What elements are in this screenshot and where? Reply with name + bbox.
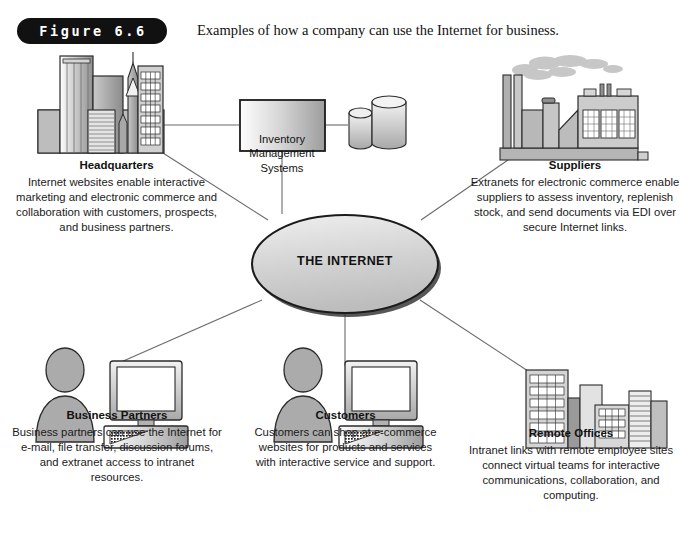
suppliers-text-block: Suppliers Extranets for electronic comme… bbox=[470, 158, 680, 235]
headquarters-text-block: Headquarters Internet websites enable in… bbox=[14, 158, 219, 235]
figure-number-badge: Figure 6.6 bbox=[17, 18, 167, 44]
remote-offices-description: Intranet links with remote employee site… bbox=[462, 443, 680, 503]
inventory-box-line3: Systems bbox=[240, 161, 324, 175]
headquarters-title: Headquarters bbox=[14, 158, 219, 173]
figure-header: Figure 6.6 Examples of how a company can… bbox=[0, 0, 679, 52]
inventory-box-line2: Management bbox=[240, 146, 324, 160]
customers-description: Customers can shop at e-commerce website… bbox=[248, 425, 443, 470]
remote-offices-title: Remote Offices bbox=[462, 426, 680, 441]
business-partners-title: Business Partners bbox=[12, 408, 222, 423]
database-cylinder-icon bbox=[349, 96, 406, 149]
suppliers-title: Suppliers bbox=[470, 158, 680, 173]
internet-business-diagram: Inventory Management Systems THE INTERNE… bbox=[0, 48, 679, 534]
inventory-box-line1: Inventory bbox=[240, 132, 324, 146]
figure-caption: Examples of how a company can use the In… bbox=[197, 22, 559, 39]
headquarters-description: Internet websites enable interactive mar… bbox=[14, 175, 219, 235]
business-partners-text-block: Business Partners Business partners can … bbox=[12, 408, 222, 485]
suppliers-description: Extranets for electronic commerce enable… bbox=[470, 175, 680, 235]
customers-title: Customers bbox=[248, 408, 443, 423]
figure-number-label: Figure 6.6 bbox=[37, 23, 146, 39]
internet-label: THE INTERNET bbox=[290, 254, 400, 268]
business-partners-description: Business partners can use the Internet f… bbox=[12, 425, 222, 485]
factory-icon bbox=[500, 55, 648, 160]
city-skyline-icon bbox=[38, 52, 164, 153]
customers-text-block: Customers Customers can shop at e-commer… bbox=[248, 408, 443, 470]
remote-offices-text-block: Remote Offices Intranet links with remot… bbox=[462, 426, 680, 503]
inventory-box-label: Inventory Management Systems bbox=[240, 132, 324, 175]
